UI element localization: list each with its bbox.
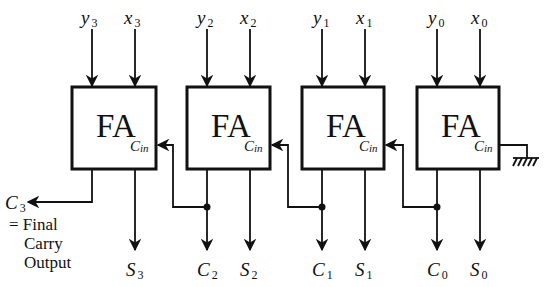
input-label-y1: y1 bbox=[313, 8, 329, 29]
output-label-s3: S3 bbox=[126, 260, 144, 281]
final-carry-note: = Final Carry Output bbox=[9, 215, 71, 272]
ground-icon bbox=[513, 158, 539, 166]
junction-dot bbox=[319, 204, 326, 211]
output-label-s0: S0 bbox=[470, 260, 488, 281]
input-label-y3: y3 bbox=[81, 8, 97, 29]
input-label-x1: x1 bbox=[356, 8, 372, 29]
input-label-x0: x0 bbox=[471, 8, 487, 29]
input-label-y2: y2 bbox=[197, 8, 213, 29]
cin-label-1: Cin bbox=[359, 139, 378, 154]
output-label-c0: C0 bbox=[427, 260, 448, 281]
output-label-s1: S1 bbox=[355, 260, 373, 281]
cin-label-2: Cin bbox=[244, 139, 263, 154]
junction-dot bbox=[434, 204, 441, 211]
input-label-x2: x2 bbox=[240, 8, 256, 29]
cin-label-3: Cin bbox=[130, 139, 149, 154]
junction-dot bbox=[204, 204, 211, 211]
output-label-c1: C1 bbox=[312, 260, 333, 281]
input-label-y0: y0 bbox=[428, 8, 444, 29]
output-label-c2: C2 bbox=[197, 260, 218, 281]
ripple-carry-adder-diagram: y3 x3 y2 x2 y1 x1 y0 x0 FA FA FA FA Cin … bbox=[0, 0, 548, 287]
output-label-s2: S2 bbox=[240, 260, 258, 281]
output-label-c3: C3 bbox=[5, 193, 26, 214]
input-label-x3: x3 bbox=[124, 8, 140, 29]
cin-label-0: Cin bbox=[474, 139, 493, 154]
